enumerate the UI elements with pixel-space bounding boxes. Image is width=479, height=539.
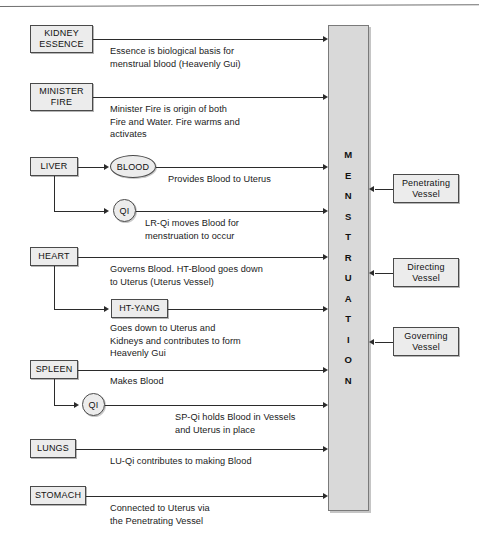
caption-kidney-essence: Essence is biological basis for menstrua…: [110, 45, 325, 70]
connector-minister-fire: [93, 97, 325, 98]
node-label-line: HEART: [38, 251, 69, 262]
node-liver-qi[interactable]: QI: [113, 199, 136, 222]
connector-spleen: [78, 370, 325, 371]
node-label-line: LUNGS: [37, 443, 69, 454]
connector-liver-qi-to-menstruation: [136, 211, 325, 212]
node-label: QI: [120, 206, 130, 216]
connector-liver-drop: [54, 176, 55, 211]
node-kidney-essence[interactable]: KIDNEY ESSENCE: [30, 25, 93, 53]
node-governing-vessel[interactable]: Governing Vessel: [393, 327, 459, 356]
arrowhead-spleen-qi-to-menstruation: [323, 402, 328, 408]
caption-liver-blood: Provides Blood to Uterus: [168, 173, 328, 186]
node-liver[interactable]: LIVER: [30, 157, 78, 176]
node-label-line: MINISTER: [39, 86, 84, 97]
connector-stomach: [86, 496, 325, 497]
node-label-line: Penetrating: [402, 178, 450, 189]
connector-liver-to-qi: [54, 211, 105, 212]
node-label-line: HT-YANG: [119, 303, 160, 314]
caption-spleen: Makes Blood: [110, 375, 325, 388]
arrowhead-spleen-to-qi: [74, 402, 79, 408]
connector-lungs: [76, 449, 325, 450]
connector-governing-vessel: [375, 342, 393, 343]
menstruation-letter: R: [345, 248, 352, 269]
connector-liver-to-blood: [78, 167, 105, 168]
arrowhead-kidney-essence: [323, 36, 328, 42]
node-label-line: Vessel: [412, 189, 440, 200]
node-spleen[interactable]: SPLEEN: [30, 360, 78, 379]
arrowhead-minister-fire: [323, 94, 328, 100]
connector-heart-to-ht-yang: [54, 309, 105, 310]
connector-kidney-essence: [93, 39, 325, 40]
connector-ht-yang-to-menstruation: [168, 309, 325, 310]
connector-spleen-qi-to-menstruation: [105, 405, 325, 406]
connector-spleen-drop: [54, 379, 55, 405]
arrowhead-heart-to-ht-yang: [104, 306, 109, 312]
node-minister-fire[interactable]: MINISTER FIRE: [30, 83, 93, 111]
arrowhead-directing-vessel: [369, 270, 374, 276]
arrowhead-ht-yang-to-menstruation: [323, 306, 328, 312]
arrowhead-penetrating-vessel: [369, 186, 374, 192]
menstruation-letter: E: [345, 166, 352, 187]
caption-heart: Governs Blood. HT-Blood goes down to Ute…: [110, 263, 325, 288]
node-label-line: Vessel: [412, 342, 440, 353]
menstruation-letter: S: [345, 207, 352, 228]
node-label-line: Vessel: [412, 273, 440, 284]
node-stomach[interactable]: STOMACH: [30, 486, 86, 505]
node-label-line: LIVER: [40, 161, 67, 172]
caption-stomach: Connected to Uterus via the Penetrating …: [110, 502, 325, 527]
node-label-line: KIDNEY: [44, 28, 79, 39]
caption-lungs: LU-Qi contributes to making Blood: [110, 455, 325, 468]
caption-minister-fire: Minister Fire is origin of both Fire and…: [110, 103, 325, 141]
diagram-canvas: M E N S T R U A T I O N KIDNEY ESSENCE E…: [0, 0, 479, 539]
arrowhead-liver-to-blood: [104, 164, 109, 170]
arrowhead-spleen: [323, 367, 328, 373]
menstruation-letter: O: [345, 350, 353, 371]
node-label-line: Directing: [407, 262, 444, 273]
caption-liver-qi: LR-Qi moves Blood for menstruation to oc…: [145, 217, 325, 242]
node-liver-blood[interactable]: BLOOD: [110, 155, 156, 178]
menstruation-letter: I: [347, 330, 350, 351]
node-lungs[interactable]: LUNGS: [30, 439, 76, 458]
node-label-line: Governing: [404, 331, 447, 342]
menstruation-letter: M: [344, 145, 352, 166]
connector-spleen-to-qi: [54, 405, 75, 406]
arrowhead-lungs: [323, 446, 328, 452]
node-label: QI: [89, 400, 99, 410]
node-label-line: ESSENCE: [39, 39, 83, 50]
node-spleen-qi[interactable]: QI: [82, 393, 105, 416]
node-directing-vessel[interactable]: Directing Vessel: [393, 258, 459, 287]
menstruation-letter: N: [345, 186, 352, 207]
menstruation-letter: T: [345, 227, 351, 248]
connector-heart: [78, 257, 325, 258]
menstruation-letter: U: [345, 268, 352, 289]
node-label-line: STOMACH: [35, 490, 81, 501]
node-label: BLOOD: [117, 162, 150, 172]
arrowhead-governing-vessel: [369, 339, 374, 345]
arrowhead-blood-to-menstruation: [323, 164, 328, 170]
caption-spleen-qi: SP-Qi holds Blood in Vessels and Uterus …: [175, 411, 330, 436]
arrowhead-liver-qi-to-menstruation: [323, 208, 328, 214]
menstruation-letter: N: [345, 371, 352, 392]
menstruation-letter: A: [345, 289, 352, 310]
connector-blood-to-menstruation: [156, 167, 325, 168]
node-penetrating-vessel[interactable]: Penetrating Vessel: [393, 174, 459, 203]
node-heart[interactable]: HEART: [30, 247, 78, 266]
connector-heart-drop: [54, 266, 55, 309]
connector-directing-vessel: [375, 273, 393, 274]
page-rule: [0, 4, 479, 7]
menstruation-column: M E N S T R U A T I O N: [328, 25, 369, 511]
node-label-line: SPLEEN: [36, 364, 73, 375]
arrowhead-heart: [323, 254, 328, 260]
node-label-line: FIRE: [51, 97, 72, 108]
menstruation-letter: T: [345, 309, 351, 330]
arrowhead-stomach: [323, 493, 328, 499]
node-ht-yang[interactable]: HT-YANG: [111, 299, 168, 318]
caption-ht-yang: Goes down to Uterus and Kidneys and cont…: [110, 322, 325, 360]
connector-penetrating-vessel: [375, 189, 393, 190]
arrowhead-liver-to-qi: [104, 208, 109, 214]
